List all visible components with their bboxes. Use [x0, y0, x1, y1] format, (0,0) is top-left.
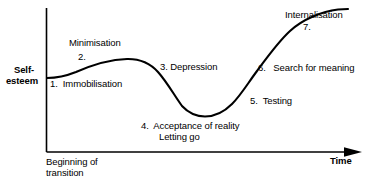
stage-7-heading: Internalisation — [285, 9, 343, 20]
stage-2-heading: Minimisation — [69, 37, 121, 48]
stage-4-label: 4. Acceptance of reality — [141, 120, 239, 131]
y-axis-label-line1: Self- — [4, 64, 44, 75]
stage-5-label: 5. Testing — [250, 95, 292, 106]
stage-6-label: 6. Search for meaning — [258, 62, 354, 73]
stage-7-number: 7. — [303, 21, 311, 32]
stage-4-label-line2: Letting go — [159, 131, 200, 142]
x-origin-label-line1: Beginning of — [46, 156, 98, 167]
x-origin-label-line2: transition — [46, 167, 84, 178]
transition-curve-diagram: Self- esteem Time Beginning of transitio… — [0, 0, 389, 186]
stage-1-label: 1. Immobilisation — [50, 78, 122, 89]
y-axis-label-line2: esteem — [0, 75, 44, 86]
x-axis-label: Time — [330, 155, 352, 166]
stage-2-number: 2. — [78, 51, 86, 62]
stage-3-label: 3. Depression — [160, 61, 217, 72]
